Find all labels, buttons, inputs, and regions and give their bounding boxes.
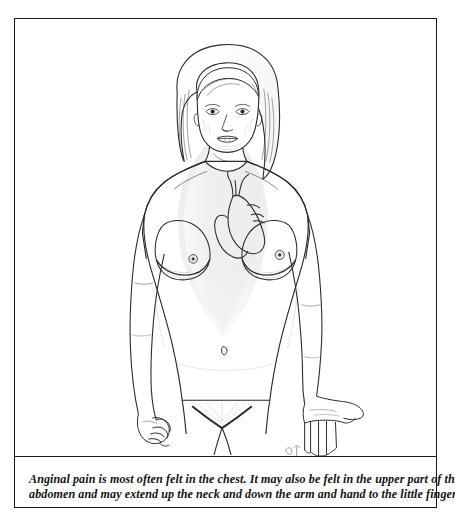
illustration-area xyxy=(15,19,436,456)
right-arm xyxy=(289,215,322,404)
right-hand xyxy=(303,396,363,456)
caption-line-1: Anginal pain is most often felt in the c… xyxy=(29,472,422,487)
caption-block: Anginal pain is most often felt in the c… xyxy=(15,457,436,507)
artist-signature xyxy=(286,446,300,456)
navel xyxy=(222,346,227,354)
left-hand xyxy=(137,414,170,446)
head xyxy=(194,63,262,153)
caption-line-2: abdomen and may extend up the neck and d… xyxy=(29,487,422,502)
right-hand-finger-little xyxy=(335,422,336,448)
figure-plate: Anginal pain is most often felt in the c… xyxy=(14,18,437,508)
left-arm xyxy=(130,215,164,420)
female-torso-angina-pain-diagram xyxy=(15,19,436,456)
pubic-area xyxy=(192,402,252,428)
